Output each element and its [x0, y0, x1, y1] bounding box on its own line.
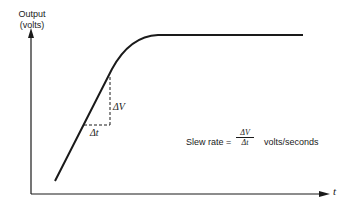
y-axis-label-line1: Output [12, 9, 52, 20]
formula-prefix: Slew rate = [186, 137, 231, 148]
formula-denominator: Δt [242, 138, 249, 147]
y-axis-label: Output (volts) [12, 9, 52, 31]
y-axis-label-line2: (volts) [12, 20, 52, 31]
x-axis-label: t [333, 186, 336, 197]
formula-numerator: ΔV [240, 128, 250, 137]
formula-units: volts/seconds [264, 137, 319, 148]
x-axis-arrow-icon [319, 191, 330, 197]
slew-rate-diagram [0, 0, 350, 207]
delta-t-label: Δt [90, 127, 99, 138]
output-curve [55, 35, 303, 181]
delta-v-label: ΔV [113, 101, 125, 112]
formula-fraction: ΔV Δt [236, 128, 254, 147]
